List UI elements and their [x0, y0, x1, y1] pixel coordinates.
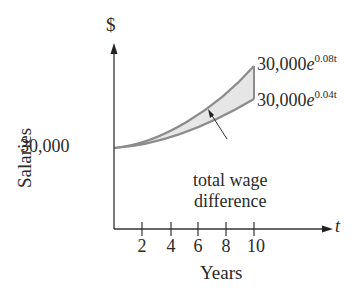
- region-annotation: total wage difference: [193, 170, 267, 212]
- y-tick-label: 30,000: [20, 136, 70, 157]
- x-axis-arrow-icon: [322, 226, 333, 233]
- legend-upper-curve: 30,000e0.08t: [257, 52, 337, 75]
- x-axis-variable: t: [335, 216, 340, 237]
- x-tick-label: 8: [222, 236, 231, 257]
- x-tick-label: 2: [138, 236, 147, 257]
- y-axis-arrow-icon: [111, 43, 118, 54]
- x-tick-label: 4: [167, 236, 176, 257]
- x-axis-label: Years: [200, 262, 242, 284]
- legend-lower-curve: 30,000e0.04t: [257, 88, 337, 111]
- x-tick-label: 10: [247, 236, 265, 257]
- wage-difference-region: [114, 66, 254, 148]
- x-tick-label: 6: [194, 236, 203, 257]
- y-unit-label: $: [106, 14, 116, 36]
